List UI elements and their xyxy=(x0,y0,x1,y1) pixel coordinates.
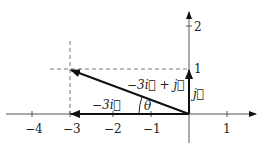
x-tick-label: −2 xyxy=(104,122,122,136)
label-neg3i: −3i⃗ xyxy=(92,98,121,112)
vector-resultant xyxy=(71,70,189,114)
label-j: j⃗ xyxy=(190,87,204,101)
vectors xyxy=(71,70,189,114)
x-tick-label: −3 xyxy=(63,122,81,136)
label-theta: θ xyxy=(144,99,152,113)
angle-arc xyxy=(139,97,142,114)
x-tick-label: −4 xyxy=(25,122,43,136)
x-tick-label: 1 xyxy=(223,122,231,136)
x-tick-label: −1 xyxy=(143,122,161,136)
y-tick-label: 1 xyxy=(194,62,202,76)
label-resultant: −3i⃗ + j⃗ xyxy=(127,78,184,92)
vector-diagram: −4 −3 −2 −1 1 1 2 −3i⃗ + j⃗ −3i⃗ j⃗ θ xyxy=(0,0,266,160)
y-tick-label: 2 xyxy=(194,20,202,34)
